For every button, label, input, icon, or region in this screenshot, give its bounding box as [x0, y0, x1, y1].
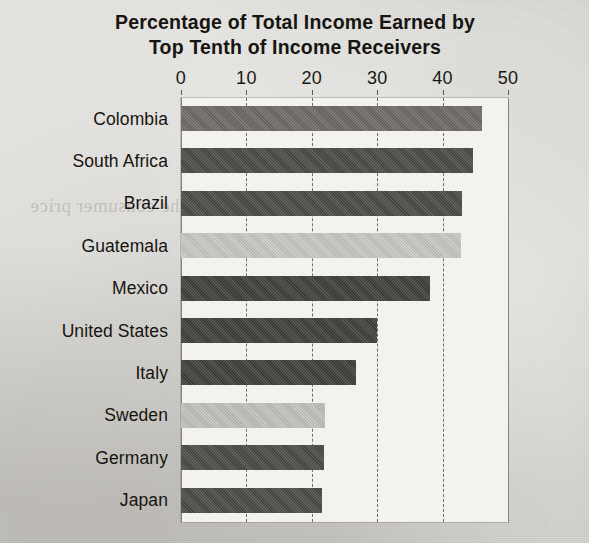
bar-row[interactable]: [181, 98, 508, 140]
y-axis-label: United States: [62, 321, 168, 342]
bar-row[interactable]: [181, 225, 508, 267]
bar-chart-figure: Percentage of Total Income Earned by Top…: [0, 0, 589, 543]
bar-row[interactable]: [181, 140, 508, 182]
x-axis-tick-mark: [246, 90, 247, 95]
bar[interactable]: [181, 276, 430, 301]
bar-row[interactable]: [181, 310, 508, 352]
bar-row[interactable]: [181, 437, 508, 479]
y-axis-label: Guatemala: [81, 236, 168, 257]
y-axis-label-row: Brazil: [0, 183, 175, 225]
x-axis-tick-mark: [443, 90, 444, 95]
bar[interactable]: [181, 233, 461, 258]
y-axis-label: Sweden: [104, 405, 168, 426]
x-axis-tick-label: 40: [432, 68, 453, 89]
y-axis-label-row: United States: [0, 310, 175, 352]
x-axis-tick-label: 50: [498, 68, 519, 89]
y-axis-label: Colombia: [93, 109, 168, 130]
y-axis-label: South Africa: [72, 151, 168, 172]
x-axis: 01020304050: [181, 68, 508, 94]
bar[interactable]: [181, 445, 324, 470]
y-axis-label: Brazil: [124, 193, 168, 214]
x-axis-tick-label: 20: [301, 68, 322, 89]
y-axis-label: Japan: [120, 490, 168, 511]
bar[interactable]: [181, 488, 322, 513]
y-axis-label-row: Sweden: [0, 395, 175, 437]
y-axis-category-labels: ColombiaSouth AfricaBrazilGuatemalaMexic…: [0, 98, 175, 522]
bar-row[interactable]: [181, 183, 508, 225]
y-axis-label-row: Mexico: [0, 268, 175, 310]
bar[interactable]: [181, 403, 325, 428]
y-axis-label: Mexico: [112, 278, 168, 299]
plot-area: [181, 98, 508, 522]
bar[interactable]: [181, 106, 482, 131]
y-axis-label-row: Colombia: [0, 98, 175, 140]
x-axis-tick-mark: [312, 90, 313, 95]
bar-row[interactable]: [181, 395, 508, 437]
x-axis-tick-label: 0: [176, 68, 186, 89]
y-axis-label-row: Japan: [0, 480, 175, 522]
x-axis-tick-mark: [508, 90, 509, 95]
bar-row[interactable]: [181, 268, 508, 310]
y-axis-label: Italy: [135, 363, 168, 384]
chart-title-line-1: Percentage of Total Income Earned by: [115, 11, 475, 33]
bar-row[interactable]: [181, 352, 508, 394]
y-axis-label-row: Guatemala: [0, 225, 175, 267]
bar[interactable]: [181, 318, 377, 343]
bar-row[interactable]: [181, 480, 508, 522]
x-axis-tick-mark: [377, 90, 378, 95]
y-axis-label-row: South Africa: [0, 140, 175, 182]
y-axis-label-row: Italy: [0, 352, 175, 394]
chart-title: Percentage of Total Income Earned by Top…: [60, 10, 530, 60]
y-axis-label: Germany: [95, 448, 168, 469]
chart-title-line-2: Top Tenth of Income Receivers: [60, 35, 530, 60]
x-axis-tick-mark: [181, 90, 182, 95]
gridline: [508, 98, 509, 522]
bar[interactable]: [181, 191, 462, 216]
bar[interactable]: [181, 148, 473, 173]
x-axis-tick-label: 10: [236, 68, 257, 89]
bar[interactable]: [181, 360, 356, 385]
y-axis-label-row: Germany: [0, 437, 175, 479]
x-axis-tick-label: 30: [367, 68, 388, 89]
